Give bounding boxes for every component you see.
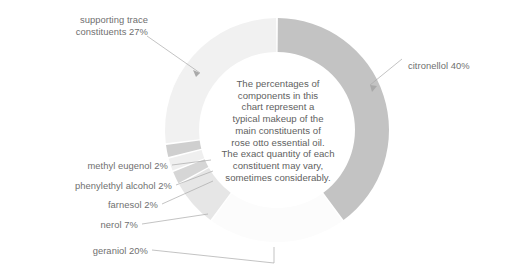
label-farnesol: farnesol 2% — [10, 199, 158, 211]
label-phenylethyl-alcohol: phenylethyl alcohol 2% — [10, 180, 172, 192]
label-geraniol: geraniol 20% — [10, 245, 148, 257]
label-supporting-trace: supporting trace constituents 27% — [8, 14, 148, 37]
leader-line-nerol — [142, 214, 208, 224]
leader-line-citronellol — [370, 59, 402, 85]
slice-geraniol[interactable] — [212, 193, 342, 242]
center-note: The percentages of components in this ch… — [197, 78, 359, 183]
label-nerol: nerol 7% — [10, 219, 138, 231]
label-methyl-eugenol: methyl eugenol 2% — [10, 160, 168, 172]
label-citronellol: citronellol 40% — [408, 60, 508, 72]
leader-line-geraniol — [152, 247, 274, 263]
leader-line-supporting-trace — [147, 36, 200, 73]
donut-chart: supporting trace constituents 27% citron… — [0, 0, 510, 278]
